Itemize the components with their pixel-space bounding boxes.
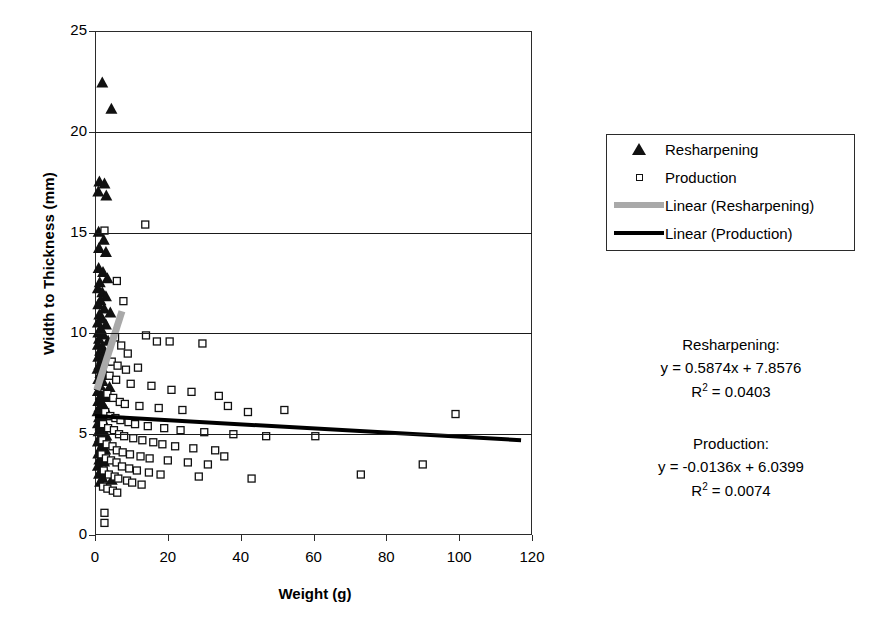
data-point-layer	[95, 31, 532, 535]
data-point-square	[164, 457, 171, 464]
gridline	[95, 132, 532, 133]
resharpening-heading: Resharpening:	[600, 333, 862, 356]
data-point-square	[452, 411, 459, 418]
data-point-square	[114, 489, 121, 496]
x-tick-mark	[459, 535, 460, 541]
data-point-square	[145, 469, 152, 476]
data-point-square	[113, 277, 120, 284]
production-heading: Production:	[600, 432, 862, 455]
data-point-square	[146, 455, 153, 462]
data-point-square	[126, 465, 133, 472]
data-point-square	[159, 441, 166, 448]
y-tick-label: 15	[43, 223, 87, 240]
data-point-square	[179, 407, 186, 414]
x-tick-label: 20	[143, 548, 193, 565]
legend-item-linear-resharpening: Linear (Resharpening)	[607, 191, 854, 219]
x-axis-title: Weight (g)	[95, 585, 535, 602]
x-tick-mark	[386, 535, 387, 541]
data-point-square	[195, 473, 202, 480]
data-point-square	[168, 386, 175, 393]
data-point-square	[114, 362, 121, 369]
x-tick-label: 60	[289, 548, 339, 565]
trendline-linear-production	[95, 416, 521, 440]
series-production	[98, 221, 459, 526]
x-tick-label: 100	[434, 548, 484, 565]
data-point-square	[101, 509, 108, 516]
data-point-square	[248, 475, 255, 482]
y-tick-mark	[89, 132, 95, 133]
data-point-square	[244, 409, 251, 416]
legend-item-resharpening: Resharpening	[607, 135, 854, 163]
data-point-square	[132, 421, 139, 428]
legend-box: Resharpening Production Linear (Resharpe…	[606, 134, 855, 251]
data-point-square	[121, 400, 128, 407]
legend-item-linear-production: Linear (Production)	[607, 219, 854, 247]
legend-item-production: Production	[607, 163, 854, 191]
data-point-square	[190, 445, 197, 452]
y-tick-mark	[89, 434, 95, 435]
x-tick-mark	[168, 535, 169, 541]
data-point-square	[148, 382, 155, 389]
data-point-square	[144, 423, 151, 430]
data-point-square	[122, 366, 129, 373]
y-tick-label: 25	[43, 21, 87, 38]
data-point-square	[133, 467, 140, 474]
data-point-square	[119, 449, 126, 456]
legend-label: Linear (Production)	[665, 225, 793, 242]
data-point-square	[177, 427, 184, 434]
data-point-square	[130, 435, 137, 442]
data-point-square	[120, 298, 127, 305]
x-tick-mark	[314, 535, 315, 541]
data-point-square	[115, 475, 122, 482]
open-square-marker-icon	[613, 174, 665, 181]
y-tick-label: 5	[43, 424, 87, 441]
data-point-square	[281, 407, 288, 414]
production-equation-block: Production: y = -0.0136x + 6.0399 R2 = 0…	[600, 432, 862, 502]
data-point-square	[137, 453, 144, 460]
legend-label: Linear (Resharpening)	[665, 197, 814, 214]
data-point-square	[184, 459, 191, 466]
data-point-square	[113, 376, 120, 383]
data-point-square	[419, 461, 426, 468]
data-point-square	[221, 453, 228, 460]
production-equation: y = -0.0136x + 6.0399	[600, 455, 862, 478]
data-point-square	[101, 519, 108, 526]
data-point-square	[357, 471, 364, 478]
resharpening-equation-block: Resharpening: y = 0.5874x + 7.8576 R2 = …	[600, 333, 862, 403]
data-point-square	[142, 221, 149, 228]
data-point-square	[204, 461, 211, 468]
x-tick-label: 80	[361, 548, 411, 565]
data-point-square	[153, 338, 160, 345]
x-tick-mark	[241, 535, 242, 541]
x-tick-label: 120	[507, 548, 557, 565]
filled-triangle-marker-icon	[613, 143, 665, 155]
production-r-squared: R2 = 0.0074	[600, 479, 862, 502]
data-point-square	[124, 350, 131, 357]
legend-label: Production	[665, 169, 737, 186]
y-tick-label: 10	[43, 323, 87, 340]
r-symbol: R	[691, 482, 702, 499]
resharpening-r-squared: R2 = 0.0403	[600, 380, 862, 403]
data-point-square	[172, 443, 179, 450]
r-symbol: R	[691, 383, 702, 400]
y-axis-title: Width to Thickness (mm)	[40, 124, 57, 404]
data-point-square	[139, 437, 146, 444]
y-tick-label: 20	[43, 122, 87, 139]
data-point-square	[150, 439, 157, 446]
plot-area	[95, 31, 532, 535]
scatter-chart: Width to Thickness (mm) Weight (g) 05101…	[0, 0, 884, 619]
data-point-square	[224, 402, 231, 409]
data-point-square	[166, 338, 173, 345]
data-point-square	[127, 380, 134, 387]
legend-label: Resharpening	[665, 141, 758, 158]
y-tick-mark	[89, 233, 95, 234]
data-point-square	[157, 471, 164, 478]
x-tick-mark	[95, 535, 96, 541]
black-line-swatch-icon	[613, 231, 665, 235]
gray-line-swatch-icon	[613, 202, 665, 208]
x-tick-label: 0	[70, 548, 120, 565]
data-point-square	[199, 340, 206, 347]
data-point-square	[155, 404, 162, 411]
data-point-square	[161, 425, 168, 432]
data-point-square	[212, 447, 219, 454]
